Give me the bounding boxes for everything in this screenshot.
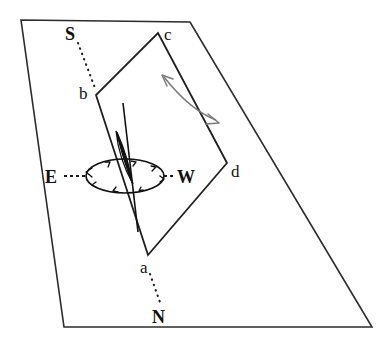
south-dotted-connector <box>78 43 95 88</box>
inner-diamond-polygon <box>96 33 227 255</box>
label-vertex-b: b <box>79 84 88 103</box>
label-compass-south: S <box>65 24 75 44</box>
diagram-canvas: a b c d N S E W <box>0 0 392 343</box>
label-compass-east: E <box>45 167 57 187</box>
label-vertex-c: c <box>164 25 172 44</box>
label-compass-north: N <box>152 307 165 327</box>
label-compass-west: W <box>177 167 195 187</box>
figure-root: a b c d N S E W <box>0 0 392 343</box>
outer-plane-polygon <box>21 20 372 327</box>
north-dotted-connector <box>150 274 161 305</box>
label-vertex-d: d <box>231 162 240 181</box>
label-vertex-a: a <box>140 258 148 277</box>
lens-sliver-outline <box>116 131 133 184</box>
